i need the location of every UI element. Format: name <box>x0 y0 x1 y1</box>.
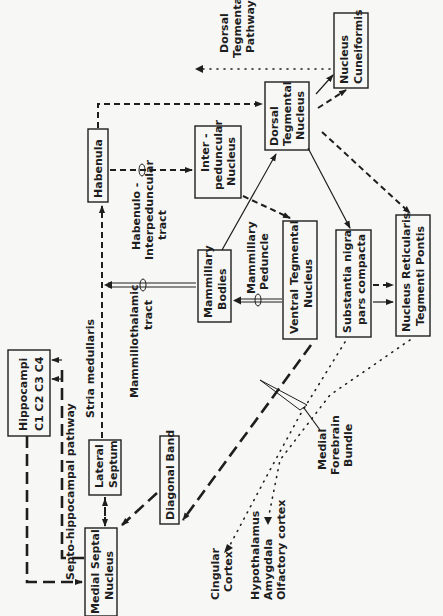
svg-text:Nucleus Reticularis: Nucleus Reticularis <box>400 212 413 332</box>
node-hippocampi: Hippocampi C1 C2 C3 C4 <box>8 350 50 436</box>
svg-text:Inter -: Inter - <box>199 134 212 172</box>
svg-text:Bodies: Bodies <box>216 268 229 310</box>
node-medial-septal-nucleus: Medial Septal Nucleus <box>85 528 117 616</box>
svg-text:Substantia nigra: Substantia nigra <box>341 230 354 333</box>
svg-text:Nucleus: Nucleus <box>338 34 351 84</box>
edge-mammillary-peduncle <box>238 299 282 302</box>
edge-diagonal-band-to-medial-septal <box>122 493 157 525</box>
node-substantia-nigra: Substantia nigra pars compacta <box>336 230 371 337</box>
svg-text:tract: tract <box>142 300 155 330</box>
svg-text:tract: tract <box>156 210 169 240</box>
arrow-head-icon <box>233 297 241 305</box>
label-olfactory-cortex: Olfactory cortex <box>275 500 288 600</box>
svg-text:Habenula: Habenula <box>92 139 105 198</box>
edge-mammillothalamic <box>108 283 196 287</box>
svg-text:Peduncle: Peduncle <box>258 233 271 290</box>
label-cingular-cortex: Cingular <box>209 547 222 600</box>
node-nucleus-cuneiformis: Nucleus Cuneiformis <box>334 9 368 88</box>
svg-text:Forebrain: Forebrain <box>329 415 342 475</box>
node-nucleus-reticularis: Nucleus Reticularis Tegmenti Pontis <box>396 212 430 336</box>
svg-text:Cortex: Cortex <box>222 551 235 592</box>
node-ventral-tegmental-nucleus: Ventral Tegmental Nucleus <box>283 221 317 340</box>
label-septo-hippocampal: Septo-hippocampal pathway <box>64 403 77 580</box>
svg-text:Nucleus: Nucleus <box>302 258 315 308</box>
svg-text:Ventral Tegmental: Ventral Tegmental <box>288 221 301 335</box>
svg-text:Nucleus: Nucleus <box>225 136 238 186</box>
svg-text:Cuneiformis: Cuneiformis <box>352 9 365 84</box>
diagram-canvas: Hippocampi C1 C2 C3 C4 Medial Septal Nuc… <box>0 0 443 616</box>
svg-text:peduncular: peduncular <box>212 120 225 190</box>
label-habenulo-interpeduncular: Habenulo - <box>130 183 143 250</box>
node-dorsal-tegmental-nucleus: Dorsal Tegmental Nucleus <box>265 81 309 150</box>
node-mammillary-bodies: Mammillary Bodies <box>198 245 231 322</box>
label-medial-forebrain-bundle: Medial <box>316 429 329 470</box>
label-hypothalamus: Hypothalamus <box>249 510 262 600</box>
svg-text:Tegmenti Pontis: Tegmenti Pontis <box>414 226 427 326</box>
svg-text:Mammillary: Mammillary <box>202 245 215 318</box>
svg-text:Septum: Septum <box>107 440 120 488</box>
edge-ventral-tegmental-to-diagonal-band <box>183 345 311 520</box>
arrow-head-icon <box>195 65 203 73</box>
svg-text:Bundle: Bundle <box>342 424 355 467</box>
svg-text:C1 C2 C3 C4: C1 C2 C3 C4 <box>33 356 46 431</box>
svg-text:Dorsal: Dorsal <box>268 106 281 146</box>
svg-text:Tegmental: Tegmental <box>281 81 294 146</box>
svg-text:Nucleus: Nucleus <box>294 90 307 140</box>
svg-text:Medial Septal: Medial Septal <box>89 529 102 614</box>
edge-dorsal-tegmental-to-cuneiformis-dashed <box>318 90 346 108</box>
edge-dorsal-tegmental-to-substantia-nigra <box>308 148 350 228</box>
node-habenula: Habenula <box>88 129 108 202</box>
node-lateral-septum: Lateral Septum <box>89 440 121 495</box>
tract-crossing-icon <box>255 294 261 306</box>
svg-text:Pathway: Pathway <box>244 0 257 53</box>
node-diagonal-band: Diagonal Band <box>160 430 179 524</box>
arrow-head-icon <box>264 517 272 525</box>
svg-text:pars compacta: pars compacta <box>355 234 368 325</box>
label-dorsal-tegmental-pathway: Dorsal <box>218 13 231 53</box>
label-mammillary-peduncle: Mammillary <box>245 221 258 294</box>
edge-habenula-to-dorsal-tegmental <box>98 104 262 128</box>
svg-text:Hippocampi: Hippocampi <box>17 358 30 431</box>
label-stria-medullaris: Stria medullaris <box>84 319 97 418</box>
arrow-head-icon <box>104 281 112 289</box>
svg-text:Nucleus: Nucleus <box>103 550 116 600</box>
svg-text:Tegmental: Tegmental <box>231 0 244 58</box>
svg-text:Lateral: Lateral <box>93 444 106 488</box>
svg-text:Diagonal Band: Diagonal Band <box>164 430 177 520</box>
svg-text:Interpeduncular: Interpeduncular <box>143 160 156 260</box>
edge-dorsal-tegmental-to-cuneiformis-solid <box>316 75 333 94</box>
label-mammillothalamic: Mammillothalamic <box>128 284 141 398</box>
label-amygdala: Amygdala <box>262 538 275 600</box>
node-interpeduncular-nucleus: Inter - peduncular Nucleus <box>195 120 241 198</box>
